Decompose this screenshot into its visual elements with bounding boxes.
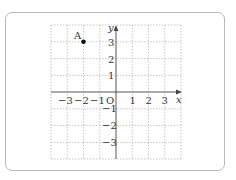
y-tick-neg1: −1 [102, 103, 117, 114]
point-a-label: A [73, 30, 82, 41]
x-axis-label: x [176, 94, 182, 105]
point-a [81, 40, 86, 45]
y-tick-neg3: −3 [102, 137, 117, 148]
y-axis-arrow-icon [114, 25, 119, 31]
y-axis-label: y [107, 22, 114, 33]
x-tick-3: 3 [162, 95, 168, 106]
x-tick-neg3: −3 [58, 95, 73, 106]
x-tick-1: 1 [130, 95, 136, 106]
coordinate-plane: x y O −3 −2 −1 1 2 3 3 2 1 −1 −2 −3 A [0, 0, 236, 180]
x-tick-2: 2 [146, 95, 152, 106]
x-tick-neg2: −2 [74, 95, 89, 106]
y-tick-3: 3 [108, 37, 114, 48]
y-tick-neg2: −2 [102, 120, 117, 131]
y-tick-1: 1 [108, 70, 114, 81]
y-tick-2: 2 [108, 54, 114, 65]
